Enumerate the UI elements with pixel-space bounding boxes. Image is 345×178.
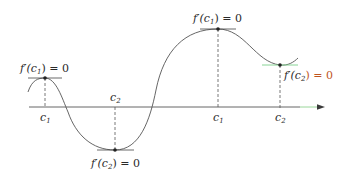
tick-label-c1-right: c1 [213,111,224,125]
critical-point-p3 [216,27,220,31]
tick-label-c2-right: c2 [275,111,286,125]
annotation-p3: f′(c1) = 0 [192,12,242,26]
x-axis [29,104,325,109]
critical-point-p2 [113,148,117,152]
function-curve [28,29,298,150]
axis-arrow-icon [317,104,325,109]
critical-point-p1 [43,76,47,80]
annotation-p1: f′(c1) = 0 [19,62,69,76]
annotation-p2: f′(c2) = 0 [90,157,140,171]
annotation-p4: f′(c2) = 0 [283,69,333,83]
critical-point-p4 [278,63,282,67]
tick-label-c1-left: c1 [40,111,51,125]
tick-label-c2-left: c2 [110,91,121,105]
derivative-diagram: c1 c2 c1 c2 f′(c1) = 0 f′(c2) = 0 f′(c1)… [0,0,345,178]
